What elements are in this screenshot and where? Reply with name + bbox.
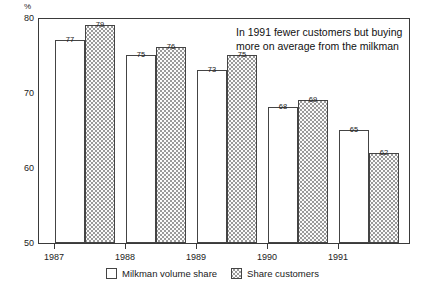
bar-value-1988-share-customers: 76	[154, 43, 188, 51]
x-tick-mark-1987	[54, 244, 55, 249]
y-tick-label-80: 80	[14, 14, 34, 23]
chart-annotation-line-1: In 1991 fewer customers but buying	[236, 25, 404, 39]
bar-value-1990-share-customers: 69	[296, 96, 330, 104]
bar-1991-milkman-volume-share	[339, 130, 369, 243]
bar-1990-share-customers	[298, 100, 328, 243]
bar-value-1991-milkman-volume-share: 65	[337, 126, 371, 134]
legend-item-share-customers: Share customers	[231, 268, 319, 279]
bar-value-1991-share-customers: 62	[367, 149, 401, 157]
chart-annotation-line-2: more on average from the milkman	[236, 39, 404, 53]
x-tick-mark-1989	[196, 244, 197, 249]
chart-annotation: In 1991 fewer customers but buying more …	[236, 25, 404, 53]
bar-1990-milkman-volume-share	[268, 107, 298, 243]
x-tick-label-1989: 1989	[166, 252, 226, 262]
bar-1988-milkman-volume-share	[126, 55, 156, 243]
y-tick-label-60: 60	[14, 164, 34, 173]
bar-value-1988-milkman-volume-share: 75	[124, 51, 158, 59]
legend-label-share-customers: Share customers	[247, 268, 319, 279]
bar-1989-milkman-volume-share	[197, 70, 227, 243]
x-tick-mark-1990	[267, 244, 268, 249]
legend-label-milkman-volume-share: Milkman volume share	[122, 268, 217, 279]
chart-legend: Milkman volume share Share customers	[0, 268, 425, 279]
legend-swatch-hatch-icon	[231, 268, 242, 279]
x-tick-mark-1991	[338, 244, 339, 249]
bar-1987-milkman-volume-share	[55, 40, 85, 243]
bar-value-1989-milkman-volume-share: 73	[195, 66, 229, 74]
bar-chart: % 80 70 60 50 77 79 75 76 73 75 68 69 65	[0, 0, 425, 291]
legend-swatch-solid-icon	[106, 268, 117, 279]
bar-value-1990-milkman-volume-share: 68	[266, 103, 300, 111]
bar-1988-share-customers	[156, 47, 186, 243]
bar-1991-share-customers	[369, 153, 399, 243]
bar-value-1987-milkman-volume-share: 77	[53, 36, 87, 44]
y-axis-unit-label: %	[24, 2, 31, 11]
bar-value-1987-share-customers: 79	[83, 21, 117, 29]
x-tick-label-1990: 1990	[237, 252, 297, 262]
legend-item-milkman-volume-share: Milkman volume share	[106, 268, 217, 279]
x-tick-label-1988: 1988	[95, 252, 155, 262]
y-tick-label-70: 70	[14, 89, 34, 98]
x-tick-label-1987: 1987	[24, 252, 84, 262]
bar-1987-share-customers	[85, 25, 115, 243]
x-tick-label-1991: 1991	[308, 252, 368, 262]
bar-1989-share-customers	[227, 55, 257, 243]
x-tick-mark-1988	[125, 244, 126, 249]
y-tick-label-50: 50	[14, 239, 34, 248]
